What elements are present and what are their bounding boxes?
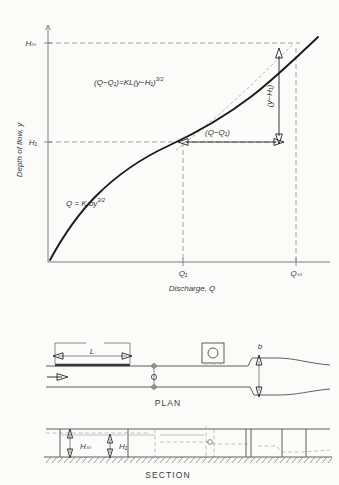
- plan-channel-banks: [46, 358, 330, 395]
- discharge-difference-label: (Q−Q₁): [205, 128, 230, 137]
- y-tick-label-hm: Hₘ: [26, 39, 37, 48]
- plan-width-label: b: [258, 342, 263, 351]
- section-view: Hₘ H₁ SECTION: [0, 412, 339, 485]
- y-tick-label-h1: H₁: [29, 138, 38, 147]
- channel-equation-label: Q = K by3/2: [66, 197, 106, 208]
- section-structure-lines: [60, 426, 306, 457]
- x-tick-label-q1: Q₁: [179, 269, 188, 278]
- depth-difference-measure: [276, 48, 283, 144]
- section-ground: [44, 457, 332, 463]
- rating-curve-chart: Hₘ H₁ Q₁ Qₘ Depth of flow, y Discharge, …: [0, 0, 339, 300]
- plan-length-label: L: [90, 347, 94, 356]
- section-h1-label: H₁: [119, 442, 128, 451]
- recorder-box-icon: [202, 343, 224, 364]
- rating-curve-line: [50, 37, 318, 260]
- hydraulics-figure: Hₘ H₁ Q₁ Qₘ Depth of flow, y Discharge, …: [0, 0, 339, 485]
- section-h1-dimension: [107, 434, 112, 458]
- section-gauge-icon: [208, 440, 213, 445]
- x-tick-label-qm: Qₘ: [290, 269, 301, 278]
- depth-difference-label: (y−H₁): [265, 85, 274, 108]
- chart-reference-lines: [44, 43, 300, 266]
- y-axis-label: Depth of flow, y: [15, 122, 24, 178]
- staff-gauge-icon: [151, 363, 156, 389]
- section-hm-dimension: [67, 429, 72, 458]
- weir-equation-label: (Q−Q₁)=KL(y−H₁)3/2: [94, 76, 164, 87]
- discharge-difference-measure: [178, 139, 284, 146]
- plan-view: L b PLAN: [0, 325, 339, 415]
- section-hm-label: Hₘ: [80, 442, 91, 451]
- flow-direction-arrow: [47, 374, 68, 381]
- plan-width-dimension: [256, 355, 262, 397]
- section-caption: SECTION: [145, 470, 190, 480]
- plan-caption: PLAN: [155, 398, 182, 408]
- x-axis-label: Discharge, Q: [169, 284, 216, 293]
